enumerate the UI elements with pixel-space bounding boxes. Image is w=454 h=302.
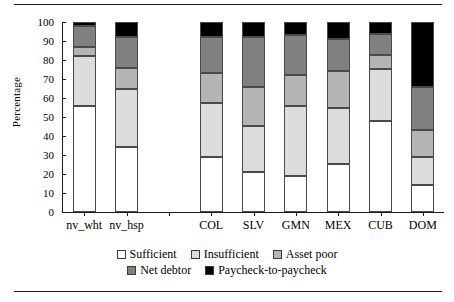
legend-swatch-icon	[127, 266, 136, 275]
bar-segment	[284, 106, 307, 176]
bar-segment	[411, 87, 434, 131]
y-tick-label: 70	[43, 74, 54, 85]
x-tick-label: DOM	[409, 218, 437, 233]
bar-MEX	[327, 22, 350, 212]
x-tick-mark	[338, 212, 339, 216]
legend-item[interactable]: Net debtor	[127, 263, 191, 278]
bar-segment	[411, 157, 434, 186]
bar-CUB	[369, 22, 392, 212]
x-tick-label: MEX	[325, 218, 352, 233]
legend: SufficientInsufficientAsset poorNet debt…	[0, 246, 454, 278]
legend-item[interactable]: Paycheck-to-paycheck	[205, 263, 327, 278]
bar-segment	[369, 55, 392, 68]
bar-segment	[73, 22, 96, 26]
legend-row: SufficientInsufficientAsset poor	[0, 246, 454, 262]
bar-segment	[327, 22, 350, 39]
y-tick-label: 100	[38, 17, 55, 28]
legend-label: Net debtor	[140, 263, 191, 278]
legend-swatch-icon	[191, 250, 200, 259]
y-tick-label: 30	[43, 150, 54, 161]
x-tick-label: COL	[199, 218, 223, 233]
x-tick-mark	[381, 212, 382, 216]
bar-segment	[327, 71, 350, 108]
bar-segment	[242, 87, 265, 126]
bar-segment	[284, 176, 307, 212]
bar-segment	[200, 37, 223, 73]
bar-segment	[200, 157, 223, 212]
bar-segment	[73, 26, 96, 47]
legend-row: Net debtorPaycheck-to-paycheck	[0, 262, 454, 278]
bar-segment	[115, 68, 138, 89]
legend-item[interactable]: Insufficient	[191, 247, 259, 262]
chart-area: Percentage 0102030405060708090100 nv_wht…	[0, 14, 454, 229]
x-tick-mark	[296, 212, 297, 216]
legend-swatch-icon	[273, 250, 282, 259]
bar-nv_hsp	[115, 22, 138, 212]
bar-segment	[115, 22, 138, 37]
bar-segment	[327, 39, 350, 71]
bar-segment	[327, 164, 350, 212]
bar-DOM	[411, 22, 434, 212]
y-tick-label: 10	[43, 188, 54, 199]
y-axis-ticks: 0102030405060708090100	[18, 14, 58, 214]
bar-segment	[284, 35, 307, 75]
bar-segment	[115, 37, 138, 67]
x-tick-label: SLV	[243, 218, 265, 233]
bar-segment	[115, 89, 138, 148]
x-tick-mark	[169, 212, 170, 216]
x-tick-label: GMN	[282, 218, 310, 233]
x-tick-mark	[127, 212, 128, 216]
y-tick-label: 40	[43, 131, 54, 142]
bar-segment	[411, 130, 434, 157]
figure-bottom-rule	[14, 291, 442, 292]
x-tick-mark	[84, 212, 85, 216]
x-tick-label: nv_wht	[66, 218, 102, 233]
bar-segment	[115, 147, 138, 212]
bar-segment	[369, 34, 392, 55]
bar-segment	[327, 108, 350, 163]
legend-label: Asset poor	[286, 247, 338, 262]
bar-segment	[242, 126, 265, 173]
y-tick-label: 50	[43, 112, 54, 123]
y-tick-label: 20	[43, 169, 54, 180]
legend-swatch-icon	[117, 250, 126, 259]
bar-segment	[411, 185, 434, 212]
plot-bars	[63, 22, 444, 212]
legend-item[interactable]: Asset poor	[273, 247, 338, 262]
bar-segment	[284, 22, 307, 35]
legend-label: Paycheck-to-paycheck	[218, 263, 327, 278]
legend-item[interactable]: Sufficient	[117, 247, 177, 262]
bar-segment	[73, 56, 96, 105]
bar-segment	[200, 103, 223, 157]
y-tick-label: 0	[49, 207, 55, 218]
bar-SLV	[242, 22, 265, 212]
x-tick-mark	[211, 212, 212, 216]
bar-nv_wht	[73, 22, 96, 212]
legend-label: Sufficient	[130, 247, 177, 262]
figure: Percentage 0102030405060708090100 nv_wht…	[0, 0, 454, 302]
bar-segment	[242, 22, 265, 37]
y-tick-label: 80	[43, 55, 54, 66]
x-tick-mark	[423, 212, 424, 216]
bar-segment	[369, 22, 392, 34]
bar-segment	[73, 47, 96, 57]
bar-segment	[369, 121, 392, 212]
y-tick-label: 90	[43, 36, 54, 47]
x-tick-label: CUB	[368, 218, 393, 233]
bar-GMN	[284, 22, 307, 212]
bar-segment	[411, 22, 434, 87]
bar-segment	[200, 73, 223, 102]
bar-segment	[284, 75, 307, 105]
legend-label: Insufficient	[204, 247, 259, 262]
bar-segment	[242, 37, 265, 86]
bar-segment	[242, 172, 265, 212]
legend-swatch-icon	[205, 266, 214, 275]
bar-segment	[369, 69, 392, 121]
bar-segment	[73, 106, 96, 212]
bar-COL	[200, 22, 223, 212]
bar-segment	[200, 22, 223, 37]
x-tick-mark	[254, 212, 255, 216]
figure-top-rule	[14, 4, 442, 5]
y-tick-label: 60	[43, 93, 54, 104]
x-tick-label: nv_hsp	[109, 218, 144, 233]
